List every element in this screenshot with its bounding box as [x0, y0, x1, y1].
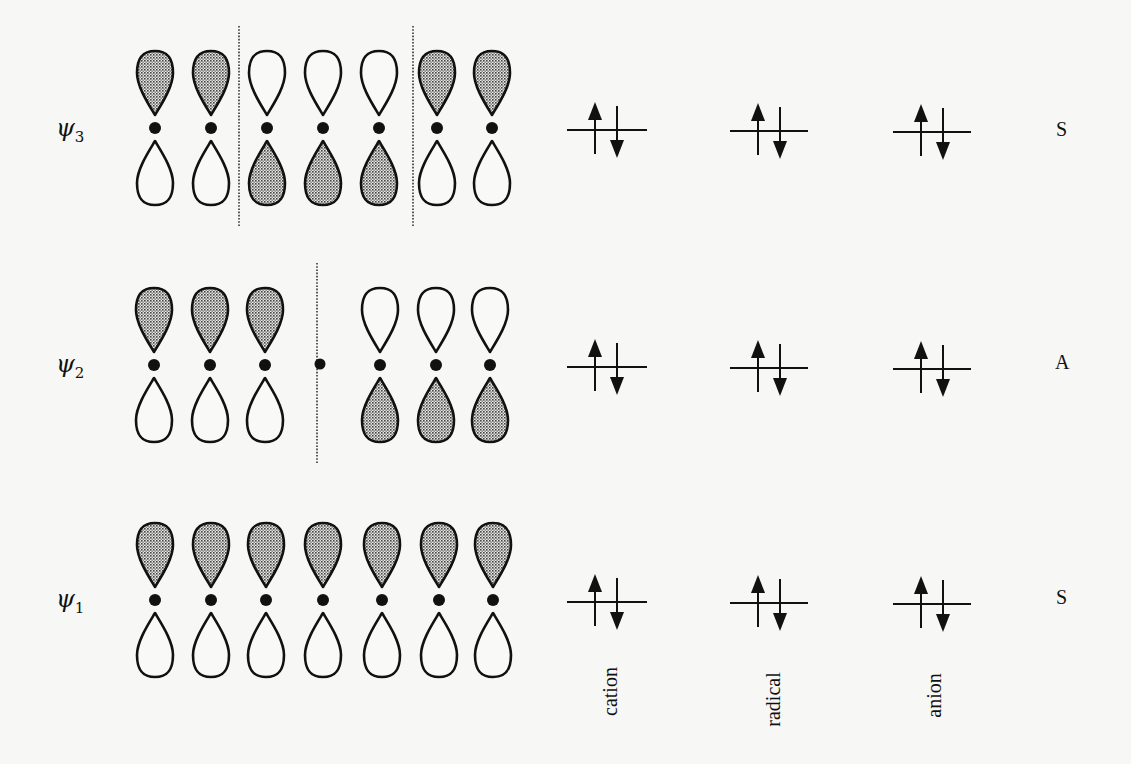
- shaded-lobe-upper: [475, 523, 511, 587]
- spin-down-arrow-head: [773, 613, 787, 631]
- spin-down-arrow-head: [610, 140, 624, 158]
- p-orbital: [305, 51, 341, 205]
- shaded-lobe-upper: [419, 51, 455, 115]
- atom-dot: [376, 594, 388, 606]
- open-lobe-lower: [192, 378, 228, 442]
- p-orbital: [136, 288, 172, 442]
- shaded-lobe-upper: [193, 51, 229, 115]
- p-orbital: [248, 523, 284, 677]
- open-lobe-lower: [364, 613, 400, 677]
- p-orbital: [474, 51, 510, 205]
- atom-dot: [260, 594, 272, 606]
- atom-dot: [484, 359, 496, 371]
- open-lobe-lower: [193, 613, 229, 677]
- spin-up-arrow-head: [751, 340, 765, 358]
- spin-up-arrow-head: [914, 341, 928, 359]
- open-lobe-upper: [362, 288, 398, 352]
- open-lobe-lower: [137, 613, 173, 677]
- open-lobe-lower: [305, 613, 341, 677]
- open-lobe-upper: [361, 51, 397, 115]
- atom-dot: [259, 359, 271, 371]
- column-label-anion: anion: [923, 656, 946, 736]
- open-lobe-upper: [472, 288, 508, 352]
- spin-up-arrow-head: [588, 339, 602, 357]
- open-lobe-lower: [419, 141, 455, 205]
- p-orbital: [364, 523, 400, 677]
- atom-dot: [148, 359, 160, 371]
- spin-up-arrow-head: [588, 102, 602, 120]
- open-lobe-lower: [248, 613, 284, 677]
- shaded-lobe-lower: [362, 378, 398, 442]
- atom-dot: [430, 359, 442, 371]
- spin-up-arrow-head: [588, 574, 602, 592]
- energy-level-cation-psi3: [567, 102, 647, 158]
- atom-dot: [487, 594, 499, 606]
- shaded-lobe-lower: [305, 141, 341, 205]
- energy-level-cation-psi1: [567, 574, 647, 630]
- shaded-lobe-lower: [418, 378, 454, 442]
- shaded-lobe-upper: [247, 288, 283, 352]
- p-orbital: [421, 523, 457, 677]
- p-orbital: [247, 288, 283, 442]
- atom-dot: [431, 122, 443, 134]
- shaded-lobe-upper: [248, 523, 284, 587]
- spin-down-arrow-head: [936, 614, 950, 632]
- spin-down-arrow-head: [773, 378, 787, 396]
- spin-up-arrow-head: [751, 103, 765, 121]
- spin-down-arrow-head: [610, 612, 624, 630]
- shaded-lobe-lower: [249, 141, 285, 205]
- symmetry-label-psi3: S: [1056, 118, 1067, 141]
- column-label-cation: cation: [599, 652, 622, 732]
- energy-level-cation-psi2: [567, 339, 647, 395]
- psi1-orbital-row: [137, 523, 511, 677]
- p-orbital: [137, 51, 173, 205]
- energy-level-radical-psi3: [730, 103, 808, 159]
- p-orbital: [361, 51, 397, 205]
- psi3-orbital-row: [137, 51, 510, 205]
- energy-levels-layer: [567, 102, 971, 632]
- column-label-radical: radical: [762, 660, 785, 740]
- p-orbital: [419, 51, 455, 205]
- energy-level-anion-psi3: [893, 104, 971, 160]
- atom-dot: [486, 122, 498, 134]
- shaded-lobe-upper: [474, 51, 510, 115]
- shaded-lobe-upper: [137, 523, 173, 587]
- shaded-lobe-upper: [193, 523, 229, 587]
- spin-down-arrow-head: [936, 379, 950, 397]
- spin-up-arrow-head: [751, 575, 765, 593]
- atom-dot: [204, 359, 216, 371]
- energy-level-anion-psi2: [893, 341, 971, 397]
- atom-dot: [433, 594, 445, 606]
- psi3-label: ψ3: [56, 114, 84, 146]
- p-orbital: [249, 51, 285, 205]
- p-orbital: [193, 51, 229, 205]
- open-lobe-lower: [137, 141, 173, 205]
- atom-dot: [317, 122, 329, 134]
- open-lobe-lower: [475, 613, 511, 677]
- shaded-lobe-upper: [192, 288, 228, 352]
- open-lobe-upper: [418, 288, 454, 352]
- atom-dot: [205, 122, 217, 134]
- energy-level-radical-psi1: [730, 575, 808, 631]
- orbital-diagram: [0, 0, 1131, 764]
- spin-down-arrow-head: [773, 141, 787, 159]
- p-orbital: [137, 523, 173, 677]
- shaded-lobe-upper: [421, 523, 457, 587]
- open-lobe-lower: [474, 141, 510, 205]
- shaded-lobe-upper: [136, 288, 172, 352]
- atom-dot: [373, 122, 385, 134]
- p-orbital: [305, 523, 341, 677]
- open-lobe-lower: [193, 141, 229, 205]
- energy-level-radical-psi2: [730, 340, 808, 396]
- psi1-label: ψ1: [56, 585, 84, 617]
- open-lobe-lower: [421, 613, 457, 677]
- symmetry-label-psi2: A: [1055, 351, 1069, 374]
- open-lobe-lower: [136, 378, 172, 442]
- p-orbital: [418, 288, 454, 442]
- open-lobe-upper: [305, 51, 341, 115]
- shaded-lobe-upper: [364, 523, 400, 587]
- node-atom-dot: [315, 359, 326, 370]
- atom-dot: [205, 594, 217, 606]
- p-orbital: [475, 523, 511, 677]
- atom-dot: [317, 594, 329, 606]
